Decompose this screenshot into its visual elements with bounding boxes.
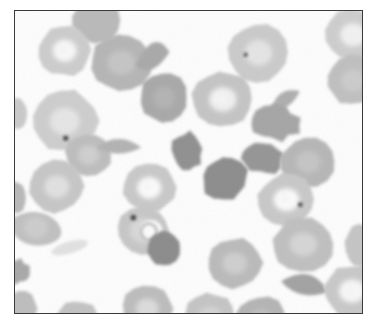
film-grain-overlay [15, 11, 362, 313]
figure-root [0, 0, 374, 330]
micrograph-frame [14, 10, 363, 314]
micrograph-canvas [15, 11, 362, 313]
caption-smudge [16, 320, 226, 327]
